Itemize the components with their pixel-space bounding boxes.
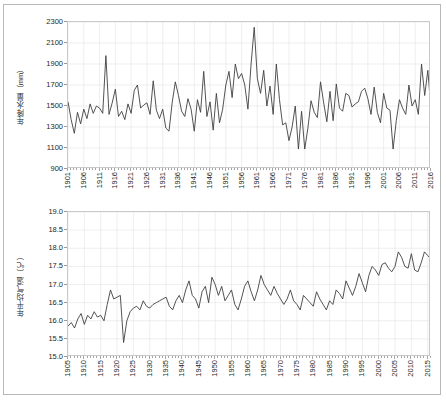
x-tick-mark <box>379 168 380 170</box>
x-tick-mark <box>326 168 327 170</box>
x-tick-mark <box>184 168 185 170</box>
x-tick-mark <box>247 168 248 170</box>
x-tick-label-temperature: 1920 <box>112 360 121 377</box>
x-tick-mark <box>405 168 406 170</box>
x-tick-mark <box>132 356 133 359</box>
x-tick-mark <box>361 356 362 359</box>
x-tick-mark <box>288 168 289 171</box>
x-tick-label-precipitation: 1996 <box>363 172 372 189</box>
x-tick-mark <box>276 356 277 358</box>
x-tick-mark <box>310 168 311 170</box>
y-tick-label-precipitation: 900 <box>33 164 63 173</box>
x-tick-label-precipitation: 1911 <box>95 172 104 188</box>
x-tick-mark <box>212 168 213 170</box>
x-tick-mark <box>93 356 94 358</box>
x-tick-mark <box>181 168 182 170</box>
x-tick-mark <box>168 168 169 170</box>
x-tick-mark <box>323 168 324 170</box>
x-tick-mark <box>272 168 273 171</box>
y-axis-title-temperature: 年平均气温（℃） <box>15 251 26 316</box>
x-tick-mark <box>114 168 115 171</box>
y-tick-label-precipitation: 1700 <box>33 80 63 89</box>
x-tick-mark <box>322 356 323 358</box>
x-tick-mark <box>313 168 314 170</box>
x-tick-mark <box>140 168 141 170</box>
x-tick-mark <box>320 168 321 171</box>
x-tick-mark <box>200 168 201 170</box>
x-tick-mark <box>105 168 106 170</box>
x-tick-mark <box>381 356 382 358</box>
x-tick-label-precipitation: 2001 <box>379 172 388 189</box>
x-tick-mark <box>316 356 317 358</box>
x-tick-mark <box>386 168 387 170</box>
x-tick-mark <box>319 356 320 358</box>
x-tick-mark <box>370 168 371 170</box>
x-tick-mark <box>80 168 81 170</box>
x-tick-mark <box>171 168 172 170</box>
x-tick-label-temperature: 1975 <box>292 360 301 377</box>
x-tick-mark <box>335 168 336 171</box>
x-tick-mark <box>196 168 197 170</box>
x-tick-mark <box>96 356 97 358</box>
x-tick-label-temperature: 1930 <box>145 360 154 377</box>
x-tick-mark <box>152 356 153 358</box>
x-tick-mark <box>241 168 242 171</box>
x-tick-mark <box>329 356 330 359</box>
x-tick-mark <box>108 168 109 170</box>
x-tick-label-temperature: 1910 <box>79 360 88 377</box>
x-tick-mark <box>338 356 339 358</box>
y-tick-label-precipitation: 1900 <box>33 59 63 68</box>
x-tick-mark <box>247 356 248 359</box>
x-tick-mark <box>307 168 308 170</box>
x-tick-mark <box>181 356 182 359</box>
x-tick-label-precipitation: 1991 <box>347 172 356 189</box>
x-tick-mark <box>423 356 424 358</box>
x-tick-mark <box>387 356 388 358</box>
x-tick-mark <box>283 356 284 358</box>
x-tick-mark <box>266 356 267 358</box>
x-tick-mark <box>421 168 422 170</box>
x-tick-label-temperature: 1945 <box>194 360 203 377</box>
x-tick-mark <box>177 168 178 171</box>
x-tick-mark <box>250 356 251 358</box>
x-tick-mark <box>289 356 290 358</box>
x-tick-mark <box>83 356 84 359</box>
x-tick-mark <box>244 168 245 170</box>
x-tick-mark <box>174 168 175 170</box>
x-tick-mark <box>159 356 160 358</box>
x-tick-mark <box>364 168 365 170</box>
y-tick-label-temperature: 19.0 <box>33 207 63 216</box>
chart-annual-precipitation: 年降水量（mm） 9001100130015001700190021002300… <box>10 11 436 201</box>
x-tick-mark <box>371 356 372 358</box>
x-tick-mark <box>127 168 128 170</box>
x-tick-mark <box>391 356 392 358</box>
x-tick-mark <box>227 356 228 358</box>
x-tick-mark <box>278 168 279 170</box>
y-tick-label-temperature: 18.0 <box>33 243 63 252</box>
x-tick-label-precipitation: 1921 <box>126 172 135 189</box>
x-tick-mark <box>228 168 229 170</box>
x-tick-mark <box>162 356 163 358</box>
x-tick-mark <box>185 356 186 358</box>
x-tick-mark <box>237 168 238 170</box>
x-tick-mark <box>351 168 352 171</box>
x-tick-label-precipitation: 1981 <box>316 172 325 189</box>
x-tick-mark <box>92 168 93 170</box>
x-tick-mark <box>260 168 261 170</box>
x-tick-mark <box>355 356 356 358</box>
x-tick-mark <box>129 356 130 358</box>
x-tick-mark <box>312 356 313 359</box>
x-tick-mark <box>329 168 330 170</box>
x-tick-mark <box>123 356 124 358</box>
x-tick-mark <box>404 356 405 358</box>
x-tick-mark <box>286 356 287 358</box>
x-tick-mark <box>297 168 298 170</box>
x-tick-mark <box>361 168 362 170</box>
x-tick-mark <box>266 168 267 170</box>
x-tick-mark <box>357 168 358 170</box>
x-tick-mark <box>392 168 393 170</box>
x-tick-mark <box>103 356 104 358</box>
x-tick-mark <box>420 356 421 358</box>
x-tick-mark <box>417 168 418 170</box>
x-tick-mark <box>155 168 156 170</box>
